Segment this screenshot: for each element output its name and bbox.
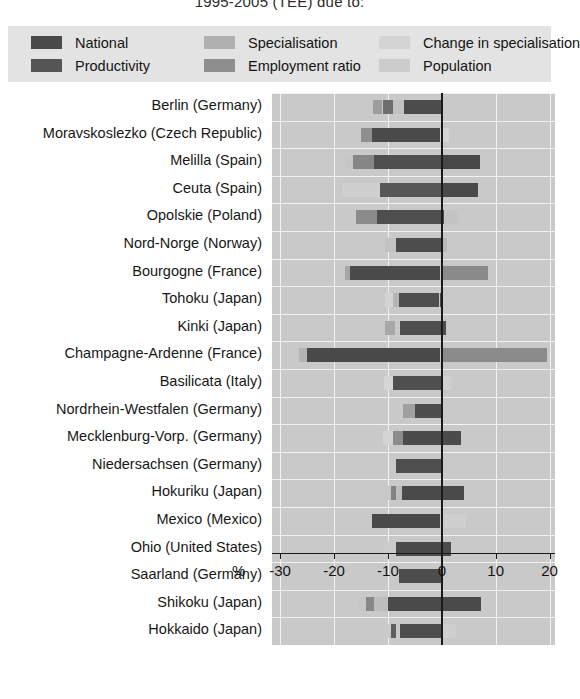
- legend-item-national: National: [8, 35, 204, 51]
- category-label: Melilla (Spain): [0, 147, 268, 175]
- bar-segment: [443, 376, 452, 390]
- bar-row: [272, 93, 555, 121]
- category-label: Shikoku (Japan): [0, 589, 268, 617]
- category-label: Moravskoslezko (Czech Republic): [0, 120, 268, 148]
- axis-tick: [442, 553, 443, 559]
- legend-label-productivity: Productivity: [75, 58, 150, 74]
- bar-row: [272, 121, 555, 149]
- bar-segment: [342, 183, 380, 197]
- legend-label-population: Population: [423, 58, 492, 74]
- bar-segment: [374, 597, 387, 611]
- category-label: Kinki (Japan): [0, 313, 268, 341]
- bar-segment: [307, 348, 440, 362]
- legend-label-employment-ratio: Employment ratio: [248, 58, 361, 74]
- value-axis-line: [272, 553, 555, 554]
- bar-segment: [361, 128, 372, 142]
- legend-swatch-employment-ratio: [204, 59, 235, 72]
- bar-segment: [404, 100, 441, 114]
- bar-row: [272, 148, 555, 176]
- axis-tick-label: 0: [422, 562, 462, 579]
- legend-item-change-in-specialisation: Change in specialisation: [379, 35, 551, 51]
- bar-segment: [415, 404, 441, 418]
- bar-segment: [373, 100, 382, 114]
- category-label: Champagne-Ardenne (France): [0, 340, 268, 368]
- bar-segment: [402, 486, 465, 500]
- bar-segment: [383, 431, 394, 445]
- bar-segment: [377, 210, 444, 224]
- bar-segment: [391, 624, 396, 638]
- axis-tick-label: -20: [314, 562, 354, 579]
- bar-row: [272, 590, 555, 618]
- legend-row-2: Productivity Employment ratio Population: [8, 54, 551, 77]
- bar-row: [272, 617, 555, 645]
- bar-segment: [442, 266, 488, 280]
- bar-row: [272, 176, 555, 204]
- bar-segment: [372, 128, 440, 142]
- page-title: 1995-2005 (TEE) due to:: [0, 0, 559, 10]
- bar-segment: [393, 431, 403, 445]
- axis-tick: [280, 553, 281, 559]
- bar-segment: [443, 514, 466, 528]
- bar-segment: [385, 238, 396, 252]
- legend-label-change-in-specialisation: Change in specialisation: [423, 35, 580, 51]
- legend-item-productivity: Productivity: [8, 58, 204, 74]
- bar-segment: [383, 100, 394, 114]
- bar-segment: [353, 155, 375, 169]
- bar-segment: [385, 293, 393, 307]
- bar-segment: [403, 404, 415, 418]
- bar-segment: [399, 293, 439, 307]
- bar-segment: [381, 486, 391, 500]
- axis-tick: [334, 553, 335, 559]
- bar-segment: [385, 321, 395, 335]
- legend-label-specialisation: Specialisation: [248, 35, 337, 51]
- bar-row: [272, 203, 555, 231]
- bar-row: [272, 535, 555, 563]
- bar-segment: [372, 514, 440, 528]
- chart-legend: National Specialisation Change in specia…: [8, 26, 551, 82]
- bar-row: [272, 286, 555, 314]
- bar-segment: [442, 155, 479, 169]
- bar-row: [272, 231, 555, 259]
- bar-segment: [442, 348, 547, 362]
- legend-item-employment-ratio: Employment ratio: [204, 58, 379, 74]
- category-label: Mexico (Mexico): [0, 506, 268, 534]
- bar-segment: [443, 624, 456, 638]
- category-label: Saarland (Germany): [0, 561, 268, 589]
- bar-segment: [384, 376, 394, 390]
- bar-segment: [442, 183, 478, 197]
- legend-swatch-population: [379, 59, 410, 72]
- legend-row-1: National Specialisation Change in specia…: [8, 31, 551, 54]
- axis-tick-label: 10: [476, 562, 516, 579]
- bar-row: [272, 397, 555, 425]
- category-label: Mecklenburg-Vorp. (Germany): [0, 423, 268, 451]
- axis-tick: [388, 553, 389, 559]
- axis-tick: [496, 553, 497, 559]
- bar-row: [272, 314, 555, 342]
- category-label: Hokkaido (Japan): [0, 616, 268, 644]
- category-label: Ceuta (Spain): [0, 175, 268, 203]
- bar-row: [272, 507, 555, 535]
- legend-swatch-change-in-specialisation: [379, 36, 410, 49]
- bar-segment: [393, 100, 404, 114]
- bar-segment: [403, 431, 461, 445]
- category-label: Berlin (Germany): [0, 92, 268, 120]
- bar-segment: [443, 459, 447, 473]
- category-label: Basilicata (Italy): [0, 368, 268, 396]
- axis-tick-label: -30: [260, 562, 300, 579]
- chart-area: Berlin (Germany)Moravskoslezko (Czech Re…: [0, 92, 559, 699]
- bar-row: [272, 259, 555, 287]
- axis-tick-label: 20: [530, 562, 570, 579]
- legend-swatch-national: [31, 36, 62, 49]
- bar-row: [272, 341, 555, 369]
- legend-item-population: Population: [379, 58, 551, 74]
- bar-segment: [393, 376, 441, 390]
- bar-row: [272, 424, 555, 452]
- bar-segment: [350, 266, 439, 280]
- bar-segment: [444, 210, 457, 224]
- category-label: Nord-Norge (Norway): [0, 230, 268, 258]
- legend-swatch-specialisation: [204, 36, 235, 49]
- bar-segment: [380, 183, 441, 197]
- bar-segment: [299, 348, 307, 362]
- category-label: Ohio (United States): [0, 534, 268, 562]
- category-label: Niedersachsen (Germany): [0, 451, 268, 479]
